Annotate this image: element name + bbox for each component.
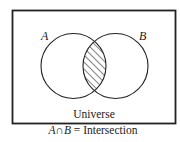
intersection-symbol: ∩ [56, 124, 64, 136]
caption: A∩B = Intersection [0, 124, 180, 136]
caption-set-b: B [64, 124, 71, 136]
caption-set-a: A [49, 124, 56, 136]
caption-text: = Intersection [71, 124, 138, 136]
set-a-label: A [40, 29, 49, 43]
universe-label: Universe [73, 108, 115, 120]
venn-diagram: A B Universe [0, 0, 180, 142]
set-b-label: B [139, 29, 147, 43]
